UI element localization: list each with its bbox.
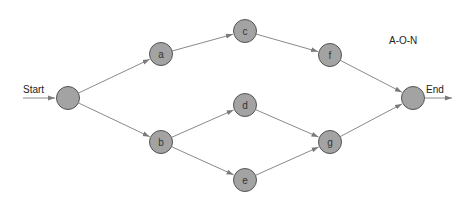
edge-b-to-d [172,110,234,137]
edge-start-to-a [78,59,149,93]
node-circle [402,87,425,110]
edge-start-to-b [78,103,149,137]
edge-b-to-e [172,147,234,175]
diagram-title: A-O-N [389,35,417,46]
node-g: g [319,131,342,154]
node-e: e [234,169,257,192]
edge-g-to-end [340,104,402,137]
edge-c-to-f [256,34,318,52]
node-circle [57,87,80,110]
edge-d-to-g [256,110,319,137]
end-label: End [426,84,444,95]
edge-f-to-end [340,60,402,92]
aon-network-diagram: abcdefg [0,0,474,201]
nodes-layer: abcdefg [57,20,425,192]
node-label: c [243,26,248,37]
node-b: b [150,131,173,154]
node-start [57,87,80,110]
node-label: f [329,50,332,61]
node-c: c [234,20,257,43]
node-f: f [319,44,342,67]
node-label: a [158,49,164,60]
node-end [402,87,425,110]
start-label: Start [23,84,44,95]
node-label: d [242,100,248,111]
node-d: d [234,94,257,117]
node-label: b [158,137,164,148]
node-a: a [150,43,173,66]
edge-a-to-c [172,34,233,51]
node-label: e [242,175,248,186]
node-label: g [327,137,333,148]
edge-e-to-g [256,147,319,175]
